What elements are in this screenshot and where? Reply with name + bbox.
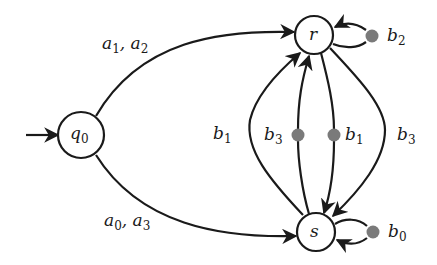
edge-label-b1-left: b1: [213, 123, 232, 146]
edge-s-r-b1: b1: [213, 53, 303, 215]
edge-s-r-b3: b3: [264, 56, 309, 214]
edge-label-b3-inner: b3: [264, 124, 283, 147]
choice-dot: [366, 30, 379, 43]
edge-label-a0-a3: a0, a3: [104, 210, 150, 233]
choice-dot: [292, 129, 305, 142]
edge-label-b1-inner: b1: [345, 124, 364, 147]
edge-label-a1-a2: a1, a2: [102, 33, 148, 56]
choice-dot: [367, 226, 380, 239]
edge-s-self-b0: b0: [335, 220, 407, 244]
edge-label-b2: b2: [387, 25, 406, 48]
edge-label-b0: b0: [388, 221, 407, 244]
state-q0: q0: [58, 112, 104, 158]
edge-r-s-b3: b3: [330, 48, 416, 216]
choice-dot: [328, 129, 341, 142]
edge-label-b3-right: b3: [397, 124, 416, 147]
edge-q0-s: a0, a3: [96, 155, 296, 236]
state-diagram: a1, a2 a0, a3 b1 b3 b1 b3: [0, 0, 437, 265]
svg-text:s: s: [310, 221, 319, 241]
state-s: s: [297, 213, 335, 251]
edge-q0-r: a1, a2: [96, 32, 294, 116]
edge-r-self-b2: b2: [333, 24, 406, 48]
state-r: r: [295, 16, 333, 54]
svg-text:r: r: [309, 24, 318, 44]
